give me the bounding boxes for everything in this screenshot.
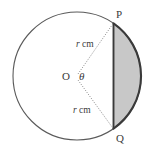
label-radius-upper-symbol: r <box>76 39 80 49</box>
figure-canvas <box>0 0 155 153</box>
label-radius-lower: r cm <box>73 106 91 116</box>
radius-oq-dotted <box>78 80 113 128</box>
label-radius-lower-symbol: r <box>73 105 77 115</box>
circle-segment-figure: P Q O θ r cm r cm <box>0 0 155 153</box>
label-radius-upper: r cm <box>76 40 94 50</box>
label-radius-lower-unit: cm <box>79 105 91 115</box>
label-angle-theta: θ <box>79 71 84 82</box>
label-point-q: Q <box>116 133 124 144</box>
label-centre-o: O <box>62 71 70 82</box>
label-radius-upper-unit: cm <box>82 39 94 49</box>
label-point-p: P <box>116 9 122 20</box>
